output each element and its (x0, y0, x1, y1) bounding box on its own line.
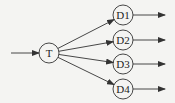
node-label: D3 (116, 58, 130, 70)
node-d3: D3 (113, 54, 133, 74)
diagram-canvas: TD1D2D3D4 (0, 0, 175, 103)
node-d4: D4 (113, 79, 133, 99)
node-t: T (39, 43, 59, 63)
edge-t-to-d2 (59, 42, 113, 52)
node-d2: D2 (113, 30, 133, 50)
diagram-svg: TD1D2D3D4 (0, 0, 175, 103)
node-label: D4 (116, 83, 130, 95)
node-d1: D1 (113, 5, 133, 25)
node-label: D1 (116, 9, 129, 21)
node-label: T (46, 47, 53, 59)
node-label: D2 (116, 34, 129, 46)
edge-t-to-d1 (58, 20, 114, 49)
nodes: TD1D2D3D4 (39, 5, 133, 99)
edges (11, 15, 165, 89)
